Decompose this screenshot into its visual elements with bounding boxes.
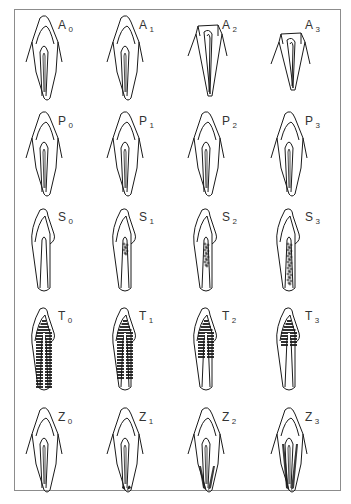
tooth-cell-z1: Z1 [101, 404, 181, 500]
tooth-cell-s1: S1 [101, 204, 181, 300]
tooth-cell-a2: A2 [182, 12, 262, 108]
tooth-label: A2 [222, 18, 237, 34]
tooth-cell-a0: A0 [20, 12, 100, 108]
tooth-cell-z2: Z2 [182, 404, 262, 500]
tooth-label: S3 [305, 210, 320, 226]
tooth-cell-t0: T0 [20, 303, 100, 399]
tooth-cell-z3: Z3 [265, 404, 345, 500]
tooth-label: P2 [222, 114, 237, 130]
tooth-cell-s3: S3 [265, 204, 345, 300]
tooth-cell-a3: A3 [265, 12, 345, 108]
tooth-label: S2 [222, 210, 237, 226]
tooth-cell-s0: S0 [20, 204, 100, 300]
tooth-cell-t2: T2 [182, 303, 262, 399]
tooth-label: P0 [58, 114, 73, 130]
tooth-label: T1 [139, 309, 154, 325]
tooth-cell-z0: Z0 [20, 404, 100, 500]
tooth-label: T2 [222, 309, 237, 325]
tooth-label: S0 [58, 210, 73, 226]
tooth-cell-a1: A1 [101, 12, 181, 108]
tooth-label: Z2 [222, 410, 237, 426]
tooth-label: Z3 [305, 410, 320, 426]
tooth-label: P1 [139, 114, 154, 130]
tooth-label: P3 [305, 114, 320, 130]
tooth-label: T0 [58, 309, 73, 325]
tooth-cell-t3: T3 [265, 303, 345, 399]
tooth-label: A0 [58, 18, 73, 34]
tooth-cell-p3: P3 [265, 108, 345, 204]
tooth-label: T3 [305, 309, 320, 325]
tooth-cell-p1: P1 [101, 108, 181, 204]
tooth-label: A1 [139, 18, 154, 34]
tooth-cell-s2: S2 [182, 204, 262, 300]
tooth-cell-t1: T1 [101, 303, 181, 399]
tooth-cell-p0: P0 [20, 108, 100, 204]
tooth-label: S1 [139, 210, 154, 226]
tooth-label: Z0 [58, 410, 73, 426]
tooth-label: Z1 [139, 410, 154, 426]
tooth-label: A3 [305, 18, 320, 34]
tooth-cell-p2: P2 [182, 108, 262, 204]
